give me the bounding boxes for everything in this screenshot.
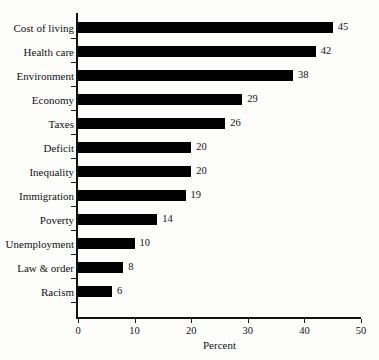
category-label: Deficit <box>0 136 74 160</box>
bar-row: Poverty14 <box>78 208 379 232</box>
y-axis-tick <box>71 158 76 159</box>
bar-value-label: 8 <box>128 257 133 277</box>
bar <box>78 70 293 81</box>
y-axis-tick <box>71 110 76 111</box>
bar-row: Economy29 <box>78 88 379 112</box>
bar-value-label: 20 <box>196 137 207 157</box>
bar-value-label: 10 <box>140 233 151 253</box>
bar <box>78 286 112 297</box>
bar <box>78 166 191 177</box>
x-axis-tick-label: 30 <box>243 323 254 339</box>
bar <box>78 262 123 273</box>
bar-row: Inequality20 <box>78 160 379 184</box>
y-axis-tick <box>71 86 76 87</box>
bar <box>78 46 316 57</box>
bar-row: Deficit20 <box>78 136 379 160</box>
x-axis-title: Percent <box>0 339 379 351</box>
x-axis-tick-label: 10 <box>129 323 140 339</box>
bar <box>78 22 333 33</box>
bar <box>78 190 186 201</box>
bar-value-label: 45 <box>338 17 349 37</box>
x-axis-title-label: Percent <box>203 339 236 351</box>
y-axis-tick <box>71 38 76 39</box>
bar-value-label: 19 <box>191 185 202 205</box>
bar-value-label: 42 <box>321 41 332 61</box>
category-label: Unemployment <box>0 232 74 256</box>
bar-row: Environment38 <box>78 64 379 88</box>
x-axis-tick-label: 40 <box>299 323 310 339</box>
bar <box>78 118 225 129</box>
bar-row: Law & order8 <box>78 256 379 280</box>
category-label: Cost of living <box>0 16 74 40</box>
x-axis-line <box>76 317 361 319</box>
category-label: Taxes <box>0 112 74 136</box>
bar-row: Health care42 <box>78 40 379 64</box>
category-label: Law & order <box>0 256 74 280</box>
bar <box>78 214 157 225</box>
y-axis-tick <box>71 182 76 183</box>
y-axis-tick <box>71 230 76 231</box>
bar-row: Unemployment10 <box>78 232 379 256</box>
category-label: Economy <box>0 88 74 112</box>
y-axis-tick <box>71 206 76 207</box>
category-label: Immigration <box>0 184 74 208</box>
bar-value-label: 20 <box>196 161 207 181</box>
bar-value-label: 26 <box>230 113 241 133</box>
category-label: Environment <box>0 64 74 88</box>
category-label: Inequality <box>0 160 74 184</box>
chart-page: Cost of living45Health care42Environment… <box>0 0 379 360</box>
y-axis-tick <box>71 278 76 279</box>
bar-value-label: 14 <box>162 209 173 229</box>
bar-value-label: 38 <box>298 65 309 85</box>
bar <box>78 94 242 105</box>
y-axis-tick <box>71 254 76 255</box>
category-label: Racism <box>0 280 74 304</box>
bar <box>78 238 135 249</box>
x-axis-tick-label: 50 <box>356 323 367 339</box>
y-axis-tick <box>71 62 76 63</box>
y-axis-tick <box>71 302 76 303</box>
category-label: Poverty <box>0 208 74 232</box>
bar-row: Immigration19 <box>78 184 379 208</box>
bar-row: Racism6 <box>78 280 379 304</box>
bar-row: Taxes26 <box>78 112 379 136</box>
bar-value-label: 6 <box>117 281 122 301</box>
x-axis-tick-label: 0 <box>75 323 80 339</box>
bar <box>78 142 191 153</box>
y-axis-tick <box>71 134 76 135</box>
bar-value-label: 29 <box>247 89 258 109</box>
bar-row: Cost of living45 <box>78 16 379 40</box>
x-axis-tick-label: 20 <box>186 323 197 339</box>
category-label: Health care <box>0 40 74 64</box>
bar-chart-plot: Cost of living45Health care42Environment… <box>0 0 379 360</box>
